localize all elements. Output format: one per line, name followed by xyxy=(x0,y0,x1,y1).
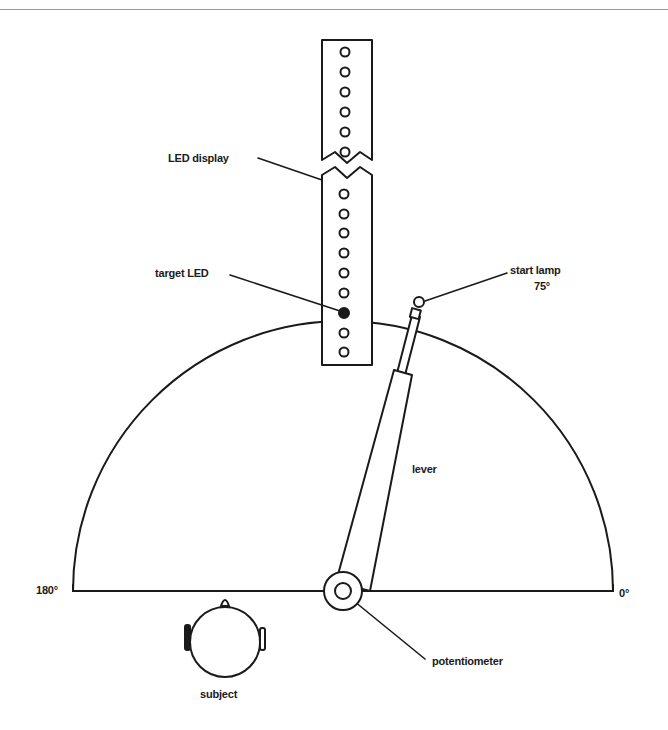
potentiometer-label: potentiometer xyxy=(432,655,503,667)
left-ear xyxy=(185,625,190,650)
angle-180-label: 180° xyxy=(36,584,58,596)
subject-head xyxy=(185,600,265,677)
potentiometer-leader xyxy=(349,597,425,659)
apparatus-diagram xyxy=(0,0,668,730)
start-angle-label: 75° xyxy=(534,280,550,292)
start-lamp xyxy=(414,297,424,307)
target-led-label: target LED xyxy=(155,267,209,279)
nose xyxy=(221,600,229,606)
lower-led-column xyxy=(339,190,349,357)
potentiometer xyxy=(324,572,362,610)
led-display-upper-segment xyxy=(322,40,372,163)
start-lamp-leader xyxy=(425,273,507,301)
start-lamp-label: start lamp xyxy=(510,264,561,276)
led-display-leader xyxy=(258,158,322,180)
angle-0-label: 0° xyxy=(619,587,629,599)
target-led xyxy=(339,308,349,318)
right-ear xyxy=(260,628,265,650)
lever-label: lever xyxy=(412,463,437,475)
subject-label: subject xyxy=(200,688,237,700)
led-display-label: LED display xyxy=(168,152,229,164)
